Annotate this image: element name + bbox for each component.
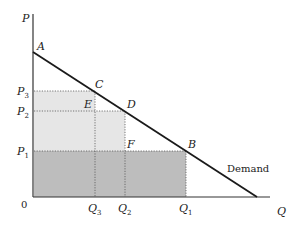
point-b-label: B [187,138,196,151]
p1-label: P1 [16,145,29,160]
point-a-label: A [36,40,45,53]
dark-region-p1 [34,151,186,197]
x-axis-label: Q [277,205,286,218]
light-region-p2 [95,111,125,151]
point-f-label: F [126,138,135,151]
y-axis-label: P [21,12,30,25]
p2-label: P2 [16,105,29,120]
point-e-label: E [83,98,92,111]
origin-label: 0 [21,199,27,210]
demand-diagram: P Q 0 A C E D F B P3 P2 P1 Q3 Q2 Q1 Dema… [0,0,296,227]
q2-label: Q2 [118,202,132,217]
q3-label: Q3 [88,202,102,217]
point-d-label: D [126,98,136,111]
point-c-label: C [95,78,104,91]
p3-label: P3 [16,85,29,100]
q1-label: Q1 [179,202,193,217]
demand-label: Demand [227,163,270,174]
